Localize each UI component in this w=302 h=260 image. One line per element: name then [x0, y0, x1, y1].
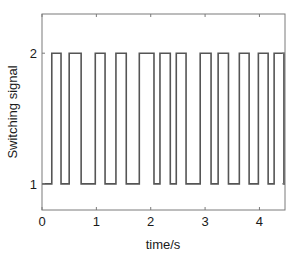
x-tick-label: 2 [147, 214, 154, 229]
x-axis-ticks: 01234 [38, 14, 263, 229]
switching-signal-line [42, 53, 285, 184]
y-axis-ticks: 12 [30, 46, 285, 192]
switching-signal-chart: 01234 12 time/s Switching signal [0, 0, 302, 260]
x-tick-label: 4 [256, 214, 263, 229]
x-tick-label: 3 [201, 214, 208, 229]
y-tick-label: 2 [30, 46, 37, 61]
y-tick-label: 1 [30, 177, 37, 192]
x-axis-label: time/s [146, 237, 181, 252]
x-tick-label: 0 [38, 214, 45, 229]
x-tick-label: 1 [93, 214, 100, 229]
y-axis-label: Switching signal [5, 65, 20, 158]
